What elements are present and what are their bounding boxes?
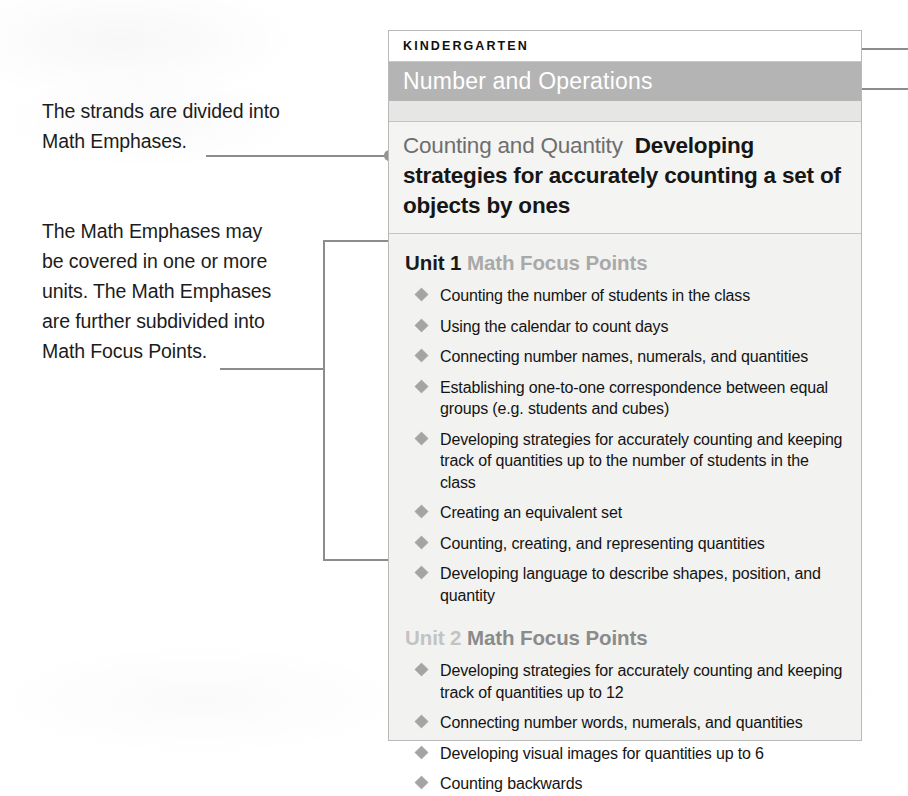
focus-point-text: Establishing one-to-one correspondence b… bbox=[440, 379, 828, 418]
leader-line-emphasis bbox=[206, 155, 388, 157]
list-item: Developing strategies for accurately cou… bbox=[415, 429, 845, 494]
list-item: Developing strategies for accurately cou… bbox=[415, 660, 845, 703]
unit-block-1: Unit 1 Math Focus Points Counting the nu… bbox=[405, 250, 845, 606]
diamond-bullet-icon bbox=[415, 505, 428, 518]
unit-2-heading: Unit 2 Math Focus Points bbox=[405, 625, 845, 651]
units-container: Unit 1 Math Focus Points Counting the nu… bbox=[389, 234, 861, 796]
diamond-bullet-icon bbox=[415, 536, 428, 549]
diamond-bullet-icon bbox=[415, 715, 428, 728]
strand-banner: Number and Operations bbox=[389, 62, 861, 101]
focus-point-text: Creating an equivalent set bbox=[440, 504, 622, 521]
unit-1-number-label: Unit 1 bbox=[405, 251, 461, 274]
list-item: Connecting number names, numerals, and q… bbox=[415, 346, 845, 368]
strand-label: Number and Operations bbox=[389, 68, 653, 95]
unit-2-focus-point-list: Developing strategies for accurately cou… bbox=[405, 660, 845, 795]
unit-1-heading: Unit 1 Math Focus Points bbox=[405, 250, 845, 276]
focus-point-text: Developing strategies for accurately cou… bbox=[440, 431, 842, 491]
curriculum-panel: KINDERGARTEN Number and Operations Count… bbox=[388, 30, 862, 741]
unit-2-number-label: Unit 2 bbox=[405, 626, 461, 649]
diamond-bullet-icon bbox=[415, 319, 428, 332]
list-item: Creating an equivalent set bbox=[415, 502, 845, 524]
diamond-bullet-icon bbox=[415, 566, 428, 579]
list-item: Developing visual images for quantities … bbox=[415, 743, 845, 765]
math-emphasis-title: Counting and Quantity bbox=[403, 133, 623, 158]
focus-point-text: Counting, creating, and representing qua… bbox=[440, 535, 765, 552]
focus-point-text: Counting backwards bbox=[440, 775, 582, 792]
diamond-bullet-icon bbox=[415, 663, 428, 676]
diamond-bullet-icon bbox=[415, 380, 428, 393]
list-item: Counting the number of students in the c… bbox=[415, 285, 845, 307]
unit-1-focus-point-list: Counting the number of students in the c… bbox=[405, 285, 845, 606]
list-item: Using the calendar to count days bbox=[415, 316, 845, 338]
unit-2-focus-label: Math Focus Points bbox=[467, 626, 648, 649]
diamond-bullet-icon bbox=[415, 746, 428, 759]
diamond-bullet-icon bbox=[415, 288, 428, 301]
annotation-emphases-note: The Math Emphases may be covered in one … bbox=[42, 216, 342, 366]
diamond-bullet-icon bbox=[415, 349, 428, 362]
leader-bracket-vertical bbox=[323, 240, 325, 561]
unit-1-focus-label: Math Focus Points bbox=[467, 251, 648, 274]
diamond-bullet-icon bbox=[415, 432, 428, 445]
list-item: Counting backwards bbox=[415, 773, 845, 795]
spacer-band bbox=[389, 101, 861, 122]
diamond-bullet-icon bbox=[415, 776, 428, 789]
grade-header-row: KINDERGARTEN bbox=[389, 31, 861, 62]
list-item: Developing language to describe shapes, … bbox=[415, 563, 845, 606]
focus-point-text: Developing language to describe shapes, … bbox=[440, 565, 821, 604]
leader-line-focus-stem bbox=[220, 368, 324, 370]
focus-point-text: Connecting number names, numerals, and q… bbox=[440, 348, 808, 365]
list-item: Connecting number words, numerals, and q… bbox=[415, 712, 845, 734]
annotation-strands-note: The strands are divided into Math Emphas… bbox=[42, 96, 342, 156]
focus-point-text: Connecting number words, numerals, and q… bbox=[440, 714, 803, 731]
list-item: Establishing one-to-one correspondence b… bbox=[415, 377, 845, 420]
grade-label: KINDERGARTEN bbox=[389, 39, 529, 53]
focus-point-text: Developing strategies for accurately cou… bbox=[440, 662, 842, 701]
unit-block-2: Unit 2 Math Focus Points Developing stra… bbox=[405, 625, 845, 795]
math-emphasis-row: Counting and Quantity Developing strateg… bbox=[389, 122, 861, 234]
focus-point-text: Developing visual images for quantities … bbox=[440, 745, 764, 762]
list-item: Counting, creating, and representing qua… bbox=[415, 533, 845, 555]
focus-point-text: Counting the number of students in the c… bbox=[440, 287, 750, 304]
focus-point-text: Using the calendar to count days bbox=[440, 318, 668, 335]
